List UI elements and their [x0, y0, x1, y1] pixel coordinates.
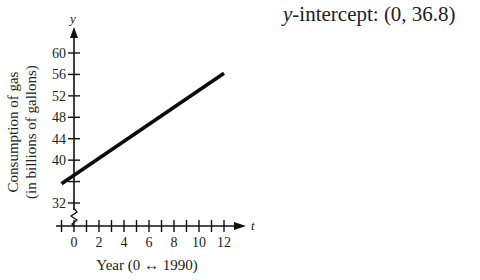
- y-axis: 32404448525660 y: [52, 11, 80, 226]
- annotation-label: -intercept:: [292, 2, 384, 26]
- annotation-value: (0, 36.8): [384, 2, 456, 26]
- y-axis-variable: y: [68, 11, 76, 26]
- y-tick-label: 48: [52, 110, 66, 125]
- y-tick-label: 60: [52, 46, 66, 61]
- y-tick-label: 40: [52, 153, 66, 168]
- line-chart: 32404448525660 y 024681012 t Year (0 ↔ 1…: [0, 0, 480, 280]
- x-axis-title: Year (0 ↔ 1990): [96, 257, 197, 274]
- y-tick-label: 32: [52, 196, 66, 211]
- x-tick-label: 4: [121, 235, 128, 250]
- x-axis-arrow-icon: [234, 222, 246, 230]
- x-tick-label: 2: [96, 235, 103, 250]
- y-tick-label: 44: [52, 132, 66, 147]
- x-axis: 024681012 t: [56, 218, 255, 250]
- x-tick-label: 8: [171, 235, 178, 250]
- x-axis-variable: t: [251, 218, 255, 233]
- annotation-variable: y: [283, 2, 292, 26]
- y-axis-arrow-icon: [70, 27, 78, 38]
- y-axis-title: Consumption of gas (in billions of gallo…: [5, 65, 40, 199]
- x-tick-label: 0: [71, 235, 78, 250]
- x-tick-label: 6: [146, 235, 153, 250]
- y-tick-label: 52: [52, 89, 66, 104]
- x-tick-label: 10: [192, 235, 206, 250]
- svg-text:Consumption of gas: Consumption of gas: [5, 71, 21, 192]
- y-tick-label: 56: [52, 67, 66, 82]
- x-tick-label: 12: [217, 235, 231, 250]
- data-line: [62, 73, 225, 183]
- y-intercept-annotation: y-intercept: (0, 36.8): [283, 2, 456, 27]
- svg-text:(in billions of gallons): (in billions of gallons): [23, 65, 40, 199]
